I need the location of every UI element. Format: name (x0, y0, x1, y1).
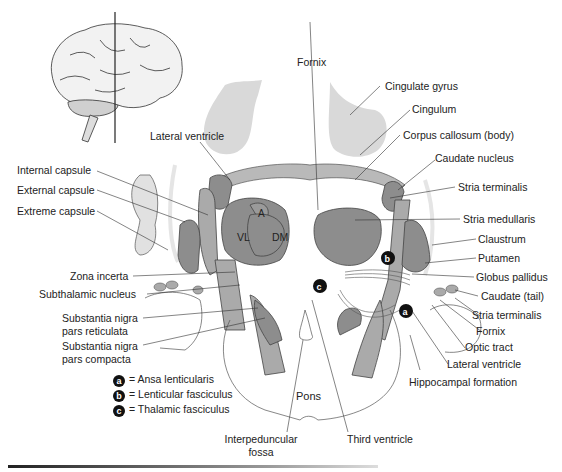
label-caudate-tail: Caudate (tail) (481, 290, 544, 302)
left-basal-ganglia (178, 175, 289, 330)
badge-a: a (399, 304, 413, 318)
label-sn-reticulata-line1: Substantia nigra (62, 312, 138, 324)
cerebral-peduncles (250, 295, 383, 378)
badge-c: c (313, 279, 327, 293)
label-subthalamic-nucleus: Subthalamic nucleus (39, 288, 136, 300)
label-zona-incerta: Zona incerta (70, 270, 128, 282)
label-cingulum: Cingulum (412, 103, 456, 115)
label-sn-reticulata-line2: pars reticulata (62, 325, 128, 337)
svg-text:c: c (317, 282, 322, 292)
inset-brain-icon (51, 12, 182, 143)
interpeduncular-fossa (299, 310, 312, 340)
label-putamen: Putamen (478, 252, 520, 264)
label-cingulate-gyrus: Cingulate gyrus (385, 80, 458, 92)
label-lateral-ventricle-bottom: Lateral ventricle (447, 358, 521, 370)
label-stria-terminalis-bottom: Stria terminalis (472, 309, 541, 321)
thalamus-vl-label: VL (237, 231, 250, 243)
label-hippocampal-formation: Hippocampal formation (409, 376, 517, 388)
svg-text:b: b (385, 254, 391, 264)
label-sn-compacta-line1: Substantia nigra (62, 340, 138, 352)
label-lateral-ventricle-top: Lateral ventricle (150, 130, 224, 142)
label-third-ventricle: Third ventricle (347, 433, 413, 445)
badge-b-icon: b (113, 390, 125, 402)
label-interpeduncular-line1: Interpeduncular (206, 433, 316, 445)
corpus-callosum (215, 164, 405, 192)
label-stria-medullaris: Stria medullaris (463, 213, 535, 225)
label-interpeduncular-line2: fossa (206, 446, 316, 458)
label-caudate-nucleus: Caudate nucleus (435, 152, 514, 164)
label-optic-tract: Optic tract (465, 341, 513, 353)
label-external-capsule: External capsule (17, 184, 95, 196)
thalamus-dm-label: DM (272, 231, 288, 243)
badge-a-icon: a (113, 375, 125, 387)
bottom-rule (8, 465, 378, 468)
pons-label: Pons (296, 390, 322, 402)
legend-item-thalamic-fasciculus: c= Thalamic fasciculus (113, 402, 229, 417)
legend-text: = Thalamic fasciculus (129, 403, 229, 415)
label-globus-pallidus: Globus pallidus (476, 271, 548, 283)
label-fornix-top: Fornix (297, 56, 326, 68)
label-sn-compacta-line2: pars compacta (62, 353, 131, 365)
label-corpus-callosum: Corpus callosum (body) (403, 129, 514, 141)
legend-text: = Lenticular fasciculus (129, 388, 233, 400)
badge-c-icon: c (113, 405, 125, 417)
thalamus-a-label: A (258, 208, 265, 219)
legend-text: = Ansa lenticularis (129, 373, 214, 385)
label-claustrum: Claustrum (478, 233, 526, 245)
label-internal-capsule: Internal capsule (17, 164, 91, 176)
legend-item-ansa-lenticularis: a= Ansa lenticularis (113, 372, 214, 387)
label-extreme-capsule: Extreme capsule (17, 205, 95, 217)
legend-item-lenticular-fasciculus: b= Lenticular fasciculus (113, 387, 233, 402)
badge-b: b (381, 251, 395, 265)
label-fornix-bottom: Fornix (476, 325, 505, 337)
label-stria-terminalis-top: Stria terminalis (458, 181, 527, 193)
